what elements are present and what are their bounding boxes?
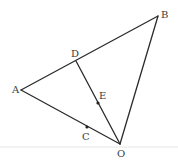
label-D: D [71,48,79,59]
label-B: B [161,9,168,20]
triangle-diagram: A B O D E C [0,0,178,163]
label-A: A [11,84,20,95]
label-O: O [117,148,125,159]
label-E: E [99,90,106,101]
label-C: C [82,131,90,142]
point-C-marker [85,125,88,128]
segment-BO [120,16,158,144]
point-E-marker [96,101,99,104]
segment-AB [21,16,158,90]
